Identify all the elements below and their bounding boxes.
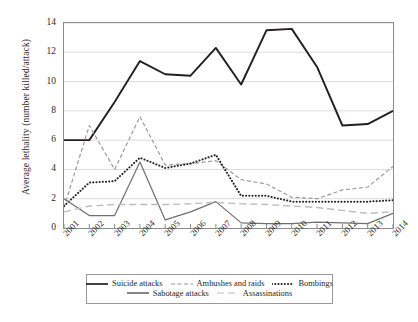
legend-item-suicide-attacks[interactable]: Suicide attacks — [86, 279, 162, 289]
x-tick-label: 2012 — [339, 218, 359, 238]
legend-label: Suicide attacks — [112, 279, 162, 289]
legend-swatch-solid — [86, 281, 108, 287]
legend-row-primary: Suicide attacksAmbushes and raidsBombing… — [92, 279, 327, 289]
legend-swatch-dotted — [272, 281, 294, 287]
legend-item-assassinations[interactable]: Assassinations — [217, 289, 292, 299]
x-tick-label: 2004 — [137, 218, 157, 238]
legend-label: Bombings — [298, 279, 332, 289]
x-tick-label: 2008 — [238, 218, 258, 238]
x-tick-label: 2011 — [314, 219, 334, 239]
legend-item-bombings[interactable]: Bombings — [272, 279, 332, 289]
x-tick-label: 2006 — [188, 218, 208, 238]
x-tick-label: 2014 — [390, 218, 410, 238]
chart-figure: Average lethality (number killed/attack)… — [0, 0, 418, 322]
x-tick-label: 2002 — [86, 218, 106, 238]
legend-row-secondary: Sabotage attacksAssassinations — [92, 289, 327, 299]
x-tick-label: 2001 — [61, 218, 81, 238]
legend-swatch-solid — [127, 290, 149, 296]
legend-swatch-dashed — [171, 281, 193, 287]
x-tick-label: 2013 — [365, 218, 385, 238]
x-tick-label: 2010 — [289, 218, 309, 238]
legend-item-sabotage-attacks[interactable]: Sabotage attacks — [127, 289, 209, 299]
x-tick-label: 2005 — [162, 218, 182, 238]
legend-label: Sabotage attacks — [153, 289, 209, 299]
x-tick-label: 2007 — [213, 218, 233, 238]
legend-label: Assassinations — [243, 289, 292, 299]
chart-legend: Suicide attacksAmbushes and raidsBombing… — [86, 274, 333, 304]
legend-swatch-longdash — [217, 290, 239, 296]
legend-label: Ambushes and raids — [197, 279, 265, 289]
x-tick-label: 2003 — [112, 218, 132, 238]
legend-item-ambushes-and-raids[interactable]: Ambushes and raids — [171, 279, 265, 289]
x-tick-label: 2009 — [263, 218, 283, 238]
